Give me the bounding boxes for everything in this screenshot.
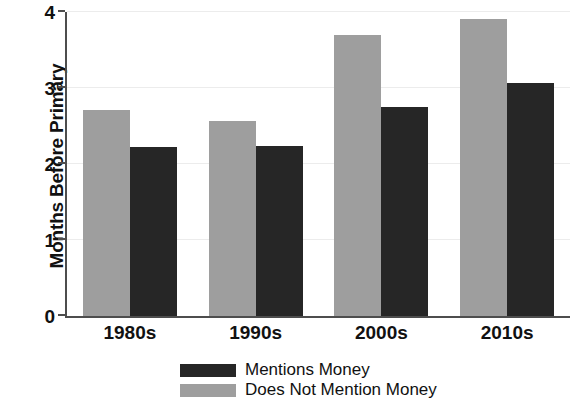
y-axis-line [65, 12, 67, 318]
y-tick-mark [58, 162, 65, 164]
x-axis-line [65, 316, 570, 318]
bar-does-not-mention-money [209, 121, 256, 316]
legend-item-mentions-money: Mentions Money [180, 360, 437, 380]
bar-does-not-mention-money [83, 110, 130, 316]
x-tick-label: 1990s [229, 322, 282, 344]
y-tick-label: 2 [44, 155, 55, 174]
y-tick-mark [58, 86, 65, 88]
x-tick-label: 2010s [481, 322, 534, 344]
bar-mentions-money [507, 83, 554, 316]
bar-mentions-money [256, 146, 303, 316]
legend-label-does-not-mention-money: Does Not Mention Money [245, 380, 437, 400]
legend-item-does-not-mention-money: Does Not Mention Money [180, 380, 437, 400]
plot-area: 01234 [65, 12, 570, 318]
y-tick-label: 3 [44, 79, 55, 98]
y-tick-label: 1 [44, 231, 55, 250]
gridline [67, 11, 570, 12]
bar-does-not-mention-money [460, 19, 507, 316]
bar-does-not-mention-money [334, 35, 381, 316]
legend-swatch-light [180, 384, 236, 397]
bar-mentions-money [130, 147, 177, 316]
y-tick-mark [58, 238, 65, 240]
legend-swatch-dark [180, 364, 236, 377]
legend-label-mentions-money: Mentions Money [245, 360, 370, 380]
y-tick-mark [58, 314, 65, 316]
y-tick-label: 0 [44, 307, 55, 326]
y-tick-label: 4 [44, 3, 55, 22]
x-tick-label: 1980s [103, 322, 156, 344]
x-tick-label: 2000s [355, 322, 408, 344]
bar-mentions-money [381, 107, 428, 316]
bar-chart-figure: Months Before Primary 01234 1980s1990s20… [0, 0, 580, 405]
chart-legend: Mentions Money Does Not Mention Money [180, 360, 437, 400]
y-tick-mark [58, 10, 65, 12]
